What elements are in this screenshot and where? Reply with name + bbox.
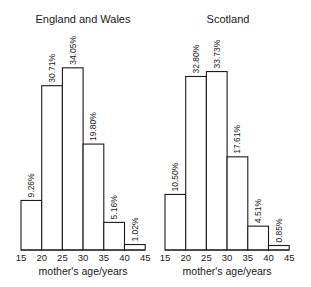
histogram-bar <box>21 200 42 250</box>
x-tick-label: 35 <box>243 252 254 263</box>
bar-value-label: 10.50% <box>170 162 180 191</box>
x-tick-label: 15 <box>160 252 171 263</box>
histogram-bar <box>165 194 186 250</box>
bar-value-label: 4.51% <box>253 199 263 224</box>
histogram-bar <box>206 72 227 250</box>
histogram-bar <box>269 246 290 250</box>
bar-value-label: 5.16% <box>109 195 119 220</box>
x-tick-label: 20 <box>36 252 47 263</box>
x-tick-label: 15 <box>16 252 27 263</box>
bar-value-label: 17.61% <box>232 125 242 154</box>
histogram-bar <box>227 157 248 250</box>
histogram-figure: England and Wales9.26%30.71%34.05%19.80%… <box>0 0 311 287</box>
histogram-scotland: Scotland10.50%32.80%33.73%17.61%4.51%0.8… <box>160 13 295 277</box>
x-tick-label: 30 <box>78 252 89 263</box>
bar-value-label: 34.05% <box>68 36 78 65</box>
chart-title: Scotland <box>207 13 250 25</box>
bar-value-label: 1.02% <box>130 217 140 242</box>
x-tick-label: 25 <box>201 252 212 263</box>
x-tick-label: 30 <box>222 252 233 263</box>
bar-value-label: 33.73% <box>212 39 222 68</box>
x-tick-label: 45 <box>140 252 151 263</box>
bar-value-label: 9.26% <box>26 173 36 198</box>
histogram-bar <box>62 68 83 250</box>
bar-value-label: 19.80% <box>88 112 98 141</box>
bar-value-label: 30.71% <box>47 53 57 82</box>
x-tick-label: 20 <box>180 252 191 263</box>
histogram-bar <box>248 226 269 250</box>
histogram-bar <box>83 144 104 250</box>
histogram-bar <box>104 222 125 250</box>
x-tick-label: 25 <box>57 252 68 263</box>
chart-title: England and Wales <box>36 13 131 25</box>
x-tick-label: 40 <box>263 252 274 263</box>
bar-value-label: 0.85% <box>274 218 284 243</box>
x-axis-label: mother's age/years <box>39 265 128 277</box>
x-tick-label: 45 <box>284 252 295 263</box>
histogram-england-wales: England and Wales9.26%30.71%34.05%19.80%… <box>16 13 151 277</box>
histogram-bar <box>42 86 63 250</box>
bar-value-label: 32.80% <box>191 44 201 73</box>
histogram-bar <box>186 76 207 250</box>
x-tick-label: 35 <box>99 252 110 263</box>
histogram-bar <box>125 245 146 250</box>
x-axis-label: mother's age/years <box>183 265 272 277</box>
x-tick-label: 40 <box>119 252 130 263</box>
